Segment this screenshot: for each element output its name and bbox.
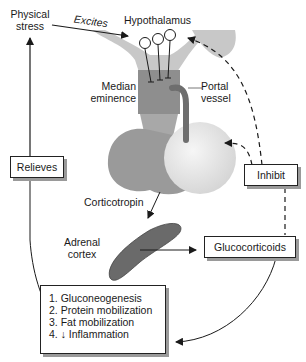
portal-vessel-line-1: Portal xyxy=(201,80,231,92)
portal-vessel-line-2: vessel xyxy=(201,92,231,104)
median-eminence-shape xyxy=(138,70,180,114)
corticotropin-label: Corticotropin xyxy=(84,196,144,208)
effect-item: 1. Gluconeogenesis xyxy=(49,292,157,304)
median-eminence-line-1: Median xyxy=(86,80,136,92)
hypothalamus-shape xyxy=(92,30,236,75)
adrenal-cortex-shape xyxy=(109,223,181,280)
effect-item: 3. Fat mobilization xyxy=(49,316,157,328)
corticotropin-arrow xyxy=(148,192,160,218)
posterior-pituitary-shape xyxy=(164,122,236,194)
hypothalamus-label: Hypothalamus xyxy=(124,14,191,26)
median-eminence-label: Median eminence xyxy=(86,80,136,104)
effect-item: 2. Protein mobilization xyxy=(49,304,157,316)
portal-vessel-label: Portal vessel xyxy=(201,80,231,104)
adrenal-cortex-line-2: cortex xyxy=(60,248,104,260)
adrenal-cortex-label: Adrenal cortex xyxy=(60,236,104,260)
physical-stress-line-1: Physical xyxy=(8,8,52,20)
glucocorticoids-to-effects-arrow xyxy=(176,258,276,342)
relieves-box: Relieves xyxy=(10,156,64,178)
adrenal-cortex-line-1: Adrenal xyxy=(60,236,104,248)
median-eminence-line-2: eminence xyxy=(86,92,136,104)
physical-stress-label: Physical stress xyxy=(8,8,52,32)
inhibit-box: Inhibit xyxy=(244,164,298,186)
effect-item: 4. ↓ Inflammation xyxy=(49,328,157,340)
physical-stress-line-2: stress xyxy=(8,20,52,32)
glucocorticoids-box: Glucocorticoids xyxy=(204,236,296,258)
effects-box: 1. Gluconeogenesis 2. Protein mobilizati… xyxy=(40,285,166,354)
